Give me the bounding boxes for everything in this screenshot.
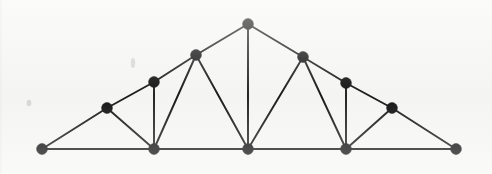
truss-node-apex bbox=[243, 19, 254, 30]
truss-node-upper-left-chord bbox=[191, 50, 202, 61]
truss-node-upper-right-chord bbox=[298, 52, 309, 63]
truss-node-left-post-top bbox=[149, 77, 160, 88]
truss-node-center-joint bbox=[243, 144, 254, 155]
truss-node-left-panel-joint bbox=[149, 144, 160, 155]
truss-node-lower-right-chord bbox=[387, 103, 398, 114]
truss-node-right-post-top bbox=[341, 78, 352, 89]
truss-diagram bbox=[0, 0, 492, 174]
paper-smudge-mark bbox=[131, 58, 135, 68]
paper-speck-mark bbox=[27, 100, 32, 106]
truss-node-left-support bbox=[37, 144, 48, 155]
truss-node-lower-left-chord bbox=[102, 103, 113, 114]
truss-node-right-support bbox=[451, 144, 462, 155]
truss-figure bbox=[0, 0, 492, 174]
truss-node-right-panel-joint bbox=[341, 144, 352, 155]
